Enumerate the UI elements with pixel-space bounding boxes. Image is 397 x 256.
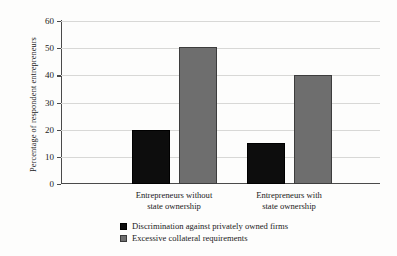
bar xyxy=(247,143,285,184)
y-tick-mark xyxy=(57,75,61,76)
bar xyxy=(294,75,332,184)
y-tick-mark xyxy=(57,184,61,185)
y-tick-mark xyxy=(57,157,61,158)
gridline xyxy=(61,48,380,49)
y-tick-mark xyxy=(57,130,61,131)
bar-chart: Percentage of respondent entrepreneurs 0… xyxy=(0,0,397,256)
y-tick-mark xyxy=(57,21,61,22)
plot-area: 0102030405060 xyxy=(61,21,380,184)
y-tick-label: 60 xyxy=(45,17,54,26)
y-axis-title: Percentage of respondent entrepreneurs xyxy=(29,10,38,200)
y-tick-label: 40 xyxy=(45,71,54,80)
x-axis-category-label: Entrepreneurs withstate ownership xyxy=(214,190,364,212)
legend-label: Discrimination against privately owned f… xyxy=(132,221,288,233)
gridline xyxy=(61,21,380,22)
legend-label: Excessive collateral requirements xyxy=(132,233,248,245)
bar xyxy=(179,47,217,184)
y-tick-mark xyxy=(57,48,61,49)
legend-swatch-icon xyxy=(120,223,127,230)
gridline xyxy=(61,130,380,131)
gridline xyxy=(61,157,380,158)
y-tick-mark xyxy=(57,103,61,104)
bar xyxy=(132,130,170,184)
gridline xyxy=(61,103,380,104)
legend-swatch-icon xyxy=(120,235,127,242)
legend: Discrimination against privately owned f… xyxy=(120,221,288,244)
y-tick-label: 20 xyxy=(45,125,54,134)
category-label-line: Entrepreneurs with xyxy=(214,190,364,201)
y-tick-label: 50 xyxy=(45,44,54,53)
y-tick-label: 0 xyxy=(50,180,55,189)
legend-item: Excessive collateral requirements xyxy=(120,233,288,245)
gridline xyxy=(61,75,380,76)
category-label-line: state ownership xyxy=(214,201,364,212)
y-tick-label: 30 xyxy=(45,98,54,107)
y-tick-label: 10 xyxy=(45,152,54,161)
legend-item: Discrimination against privately owned f… xyxy=(120,221,288,233)
